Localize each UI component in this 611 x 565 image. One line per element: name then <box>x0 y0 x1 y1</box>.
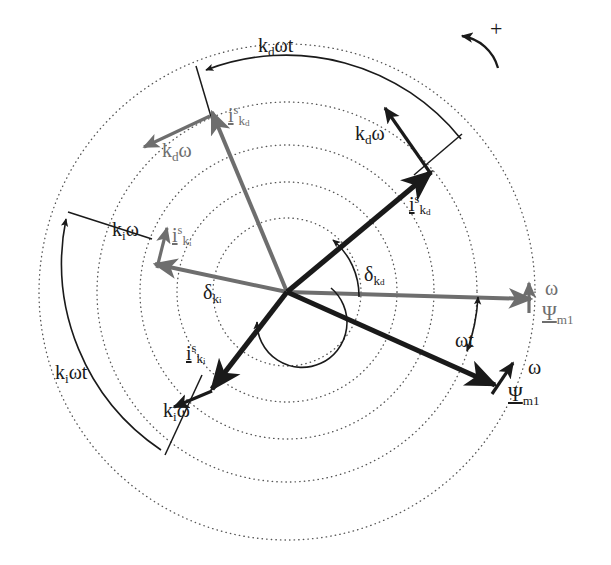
label-ki-omega-lower: kiω <box>163 400 190 423</box>
label-i-kd-gray: iskd <box>228 104 250 128</box>
label-i-ki-black: iski <box>186 342 206 366</box>
diagram-svg <box>0 0 611 565</box>
label-psi-m1-black: Ψm1 <box>508 384 540 407</box>
label-i-ki-gray: iski <box>172 224 192 248</box>
label-omega-t: ωt <box>455 330 474 350</box>
reference-lines <box>68 66 462 455</box>
label-kd-omega-left: kdω <box>162 140 192 163</box>
label-psi-m1-gray: Ψm1 <box>542 303 574 326</box>
ref-line-ki-gray <box>68 212 152 239</box>
label-delta-ki: δki <box>203 282 222 305</box>
phasor-diagram-canvas: + kdωt iskd kdω kdω iskd kiω iski δki δk… <box>0 0 611 565</box>
label-kd-omega-t: kdωt <box>258 35 293 58</box>
label-i-kd-black: iskd <box>409 193 431 217</box>
ki-omega-arrow-gray <box>157 228 167 268</box>
label-omega-upper: ω <box>545 278 558 298</box>
label-ki-omega-left: kiω <box>112 219 139 242</box>
rotation-plus-label: + <box>490 18 502 40</box>
label-omega-lower: ω <box>528 357 541 377</box>
gray-vectors <box>155 112 531 299</box>
label-ki-omega-t: kiωt <box>55 362 87 385</box>
ref-line-kd-black <box>414 134 462 175</box>
vector-i-ki-black <box>212 292 287 389</box>
vector-i-kd-gray <box>212 112 287 292</box>
label-delta-kd: δkd <box>364 264 385 287</box>
kd-omega-arrow-black <box>385 108 431 174</box>
label-kd-omega-right: kdω <box>355 123 385 146</box>
vector-psi-m1-gray <box>287 292 531 299</box>
